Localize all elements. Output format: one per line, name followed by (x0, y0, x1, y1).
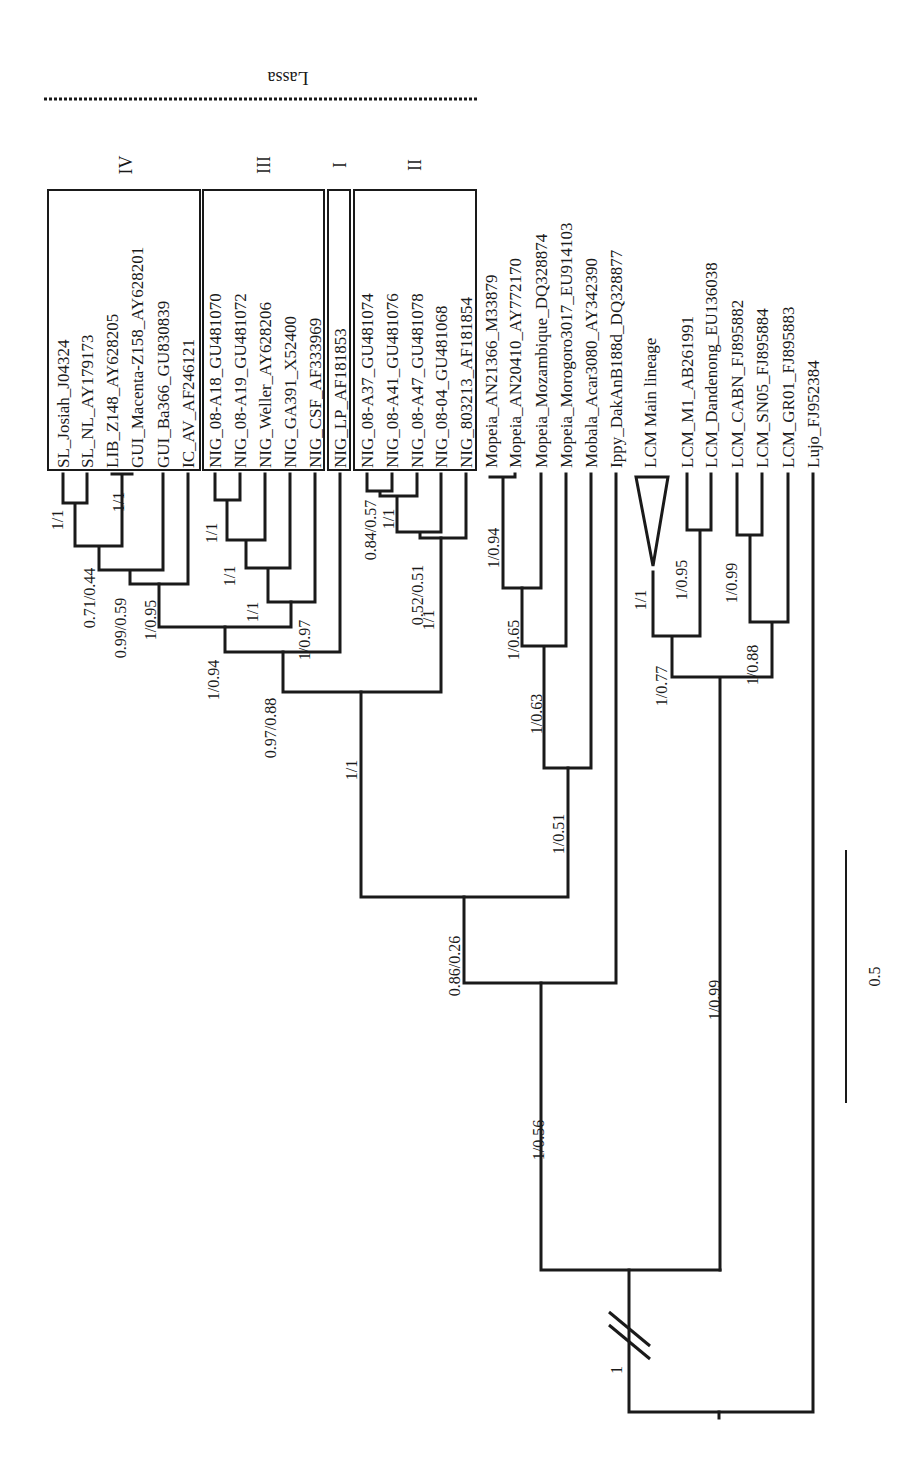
tip-label: Mopeia_AN21366_M33879 (482, 274, 501, 468)
support-value: 1/1 (49, 510, 66, 530)
support-value: 1/1 (380, 509, 397, 529)
tip-label: LCM_SN05_FJ895884 (753, 308, 772, 468)
tip-label: Ippy_DakAnB188d_DQ328877 (607, 249, 626, 468)
tip-label: LIB_Z148_AY628205 (103, 314, 122, 468)
phylogenetic-tree: Lassa IVIIIIII SL_Josiah_J04324SL_NL_AY1… (0, 0, 906, 1469)
lineage-label-ii: II (405, 159, 425, 171)
tip-label: IC_AV_AF246121 (179, 339, 198, 468)
tip-label: GUI_Macenta-Z158_AY628201 (128, 247, 147, 468)
support-value: 1/1 (420, 610, 437, 630)
support-value: 1/0.94 (205, 660, 222, 700)
branch-iv (63, 474, 188, 584)
tip-label: SL_NL_AY179173 (78, 335, 97, 469)
support-value: 1/1 (203, 523, 220, 543)
support-value: 0.99/0.59 (112, 598, 129, 658)
tip-label: NIG_08-04_GU481068 (432, 306, 451, 468)
support-value: 1/1 (632, 590, 649, 610)
tip-label: LCM_Dandenong_EU136038 (702, 262, 721, 468)
support-value: 1/1 (221, 566, 238, 586)
support-value: 1/0.56 (530, 1120, 547, 1160)
tip-label: SL_Josiah_J04324 (54, 339, 73, 468)
support-value: 1/0.95 (673, 560, 690, 600)
support-value: 1/1 (110, 492, 127, 512)
scale-bar: 0.5 (846, 850, 883, 1103)
lcm-main-lineage-collapsed-clade (636, 477, 668, 566)
tip-label: LCM Main lineage (641, 338, 660, 468)
lineage-label-i: I (330, 162, 350, 168)
support-value: 0.97/0.88 (262, 698, 279, 758)
lineage-label-iv: IV (116, 156, 136, 175)
tip-label: Mopeia_Morogoro3017_EU914103 (557, 222, 576, 468)
support-value: 1/0.95 (142, 600, 159, 640)
tip-label: NIG_08-A18_GU481070 (206, 293, 225, 468)
tip-label: NIG_CSF_AF333969 (306, 318, 325, 468)
support-value: 0.71/0.44 (81, 568, 98, 628)
support-value: 1/0.77 (653, 666, 670, 706)
support-value: 1/1 (244, 602, 261, 622)
tip-label: Mopeia_Mozambique_DQ328874 (532, 233, 551, 468)
support-value: 0.84/0.57 (362, 500, 379, 560)
support-value: 1/0.94 (485, 528, 502, 568)
tip-label: NIG_LP_AF181853 (331, 328, 350, 468)
support-value: 0.86/0.26 (446, 936, 463, 996)
tip-label: Mopeia_AN20410_AY772170 (506, 258, 525, 468)
tip-label: NIG_803213_AF181854 (457, 297, 476, 468)
tip-label: Lujo_FJ952384 (804, 360, 823, 468)
support-value: 1/0.88 (744, 645, 761, 685)
support-value: 1/0.65 (505, 620, 522, 660)
tip-label: NIG_08-A41_GU481076 (383, 293, 402, 468)
support-value: 1/1 (343, 760, 360, 780)
support-value: 1 (608, 1366, 625, 1374)
lassa-label: Lassa (267, 68, 308, 88)
branch-i (225, 474, 340, 652)
tip-label: Mobala_Acar3080_AY342390 (582, 258, 601, 468)
tip-label: LCM_CABN_FJ895882 (728, 300, 747, 468)
lassa-group-marker: Lassa (44, 68, 478, 99)
tip-label: NIG_08-A37_GU481074 (358, 293, 377, 468)
tip-label: NIG_Weller_AY628206 (256, 302, 275, 468)
tree-branches (63, 474, 813, 1418)
support-value: 1/0.97 (296, 620, 313, 660)
branch-ow-lcm (541, 983, 720, 1270)
support-value: 1/0.99 (723, 563, 740, 603)
tip-label: NIG_GA391_X52400 (281, 316, 300, 468)
support-value: 1/0.99 (706, 980, 723, 1020)
tip-label: NIG_08-A19_GU481072 (231, 293, 250, 468)
support-value: 1/0.63 (528, 694, 545, 734)
tip-label: GUI_Ba366_GU830839 (154, 301, 173, 468)
branch-iv-iii (159, 584, 291, 627)
tip-labels: SL_Josiah_J04324SL_NL_AY179173LIB_Z148_A… (54, 222, 823, 468)
tip-label: LCM_GR01_FJ895883 (779, 306, 798, 468)
lineage-label-iii: III (254, 156, 274, 174)
scale-bar-label: 0.5 (866, 967, 883, 987)
tip-label: LCM_M1_AB261991 (678, 316, 697, 468)
support-value: 1/0.51 (550, 814, 567, 854)
tip-label: NIG_08-A47_GU481078 (408, 293, 427, 468)
